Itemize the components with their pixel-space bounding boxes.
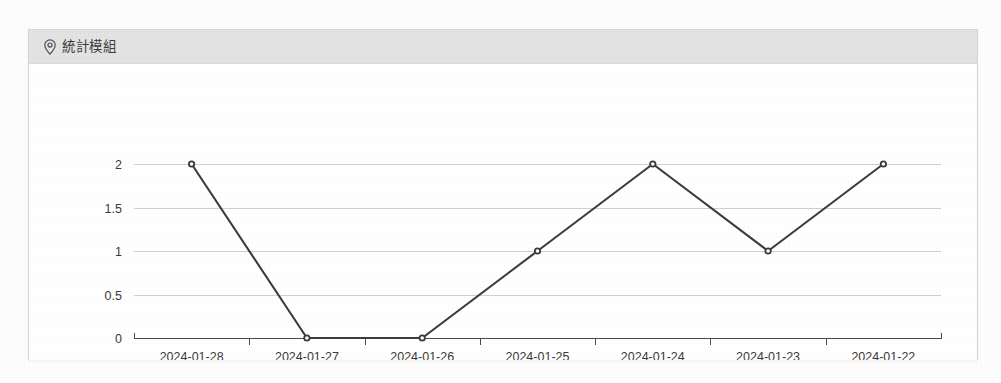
- chart-y-axis-tick-labels: 00.511.52: [105, 158, 122, 346]
- y-axis-tick-label: 1.5: [105, 202, 122, 216]
- card-title: 統計模組: [62, 40, 116, 54]
- map-pin-icon: [43, 39, 57, 55]
- x-axis-tick-label: 2024-01-25: [506, 350, 570, 361]
- series-data-point[interactable]: [189, 161, 194, 166]
- series-data-point[interactable]: [881, 161, 886, 166]
- y-axis-tick-label: 0.5: [105, 289, 122, 303]
- chart-x-axis-ticks: [250, 339, 827, 345]
- card-header: 統計模組: [29, 30, 977, 64]
- x-axis-tick-label: 2024-01-24: [621, 350, 685, 361]
- series-data-point[interactable]: [420, 335, 425, 340]
- series-data-point[interactable]: [535, 248, 540, 253]
- series-data-point[interactable]: [765, 248, 770, 253]
- x-axis-tick-label: 2024-01-23: [736, 350, 800, 361]
- chart-x-axis-tick-labels: 2024-01-282024-01-272024-01-262024-01-25…: [160, 350, 916, 361]
- y-axis-tick-label: 2: [115, 158, 122, 172]
- y-axis-tick-label: 0: [115, 332, 122, 346]
- series-data-point[interactable]: [304, 335, 309, 340]
- line-chart: 00.511.52 2024-01-282024-01-272024-01-26…: [29, 64, 977, 360]
- chart-gridlines: [134, 165, 941, 296]
- card-body: 00.511.52 2024-01-282024-01-272024-01-26…: [29, 64, 977, 360]
- statistics-module-card: 統計模組 00.511.52 2024-01-282024-01-272024-…: [28, 29, 978, 360]
- y-axis-tick-label: 1: [115, 245, 122, 259]
- x-axis-tick-label: 2024-01-22: [851, 350, 915, 361]
- x-axis-tick-label: 2024-01-28: [160, 350, 224, 361]
- x-axis-tick-label: 2024-01-26: [390, 350, 454, 361]
- x-axis-tick-label: 2024-01-27: [275, 350, 339, 361]
- chart-axes: [135, 333, 942, 339]
- series-data-point[interactable]: [650, 161, 655, 166]
